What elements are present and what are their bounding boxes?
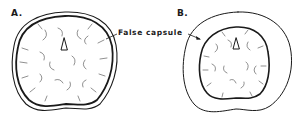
panel-b-label: B. [177,8,188,18]
panel-b-gland-boundary [199,27,269,99]
panel-a-urethra [61,38,67,50]
diagram-canvas [0,0,296,120]
panel-b-urethra [233,38,239,49]
arrowhead-icon [196,36,201,40]
false-capsule-label: False capsule [118,28,183,37]
panel-b-cross-section [183,12,291,112]
panel-a-gland-boundary [16,16,113,106]
panel-a-cross-section [12,12,117,111]
panel-a-label: A. [11,8,23,18]
